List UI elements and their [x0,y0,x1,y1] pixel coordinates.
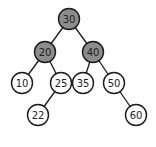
node-label: 35 [77,78,90,89]
node-label: 20 [39,47,52,58]
tree-node-60: 60 [126,105,147,126]
node-label: 25 [55,78,68,89]
tree-node-35: 35 [73,73,94,94]
tree-node-10: 10 [12,73,33,94]
tree-node-40: 40 [83,42,104,63]
tree-nodes: 302040102535502260 [12,9,147,126]
node-label: 50 [108,78,121,89]
tree-node-25: 25 [51,73,72,94]
node-label: 40 [87,47,100,58]
node-label: 10 [16,78,29,89]
tree-node-20: 20 [35,42,56,63]
tree-edges [22,19,136,115]
tree-diagram: 302040102535502260 [0,0,156,147]
tree-node-50: 50 [104,73,125,94]
tree-node-22: 22 [28,105,49,126]
node-label: 22 [32,110,45,121]
node-label: 30 [63,14,76,25]
tree-node-30: 30 [59,9,80,30]
node-label: 60 [130,110,143,121]
